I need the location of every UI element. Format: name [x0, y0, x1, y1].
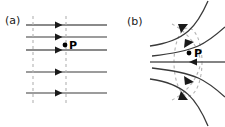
panel-label-b: (b): [127, 15, 143, 28]
point-label-p-a: P: [69, 39, 77, 52]
arrowhead-a-3: [55, 46, 63, 53]
panel-b-field-lines: [150, 1, 225, 126]
point-label-p-b: P: [194, 47, 202, 60]
arrowhead-b-3: [184, 76, 194, 85]
arrowhead-a-5: [55, 89, 63, 96]
point-p-marker-a: [63, 43, 68, 48]
arrowhead-b-2: [184, 39, 194, 48]
panel-label-a: (a): [5, 14, 20, 27]
point-p-marker-b: [187, 51, 192, 56]
arrowhead-a-2: [55, 33, 63, 40]
arrowhead-a-4: [55, 68, 63, 75]
panel-a-arrowheads: [55, 21, 63, 96]
field-line-b-4: [150, 79, 208, 126]
field-line-b-1: [150, 1, 208, 46]
field-line-diagram-svg: [0, 0, 225, 127]
figure-container: (a) P (b) P: [0, 0, 225, 127]
arrowhead-a-1: [55, 21, 63, 28]
